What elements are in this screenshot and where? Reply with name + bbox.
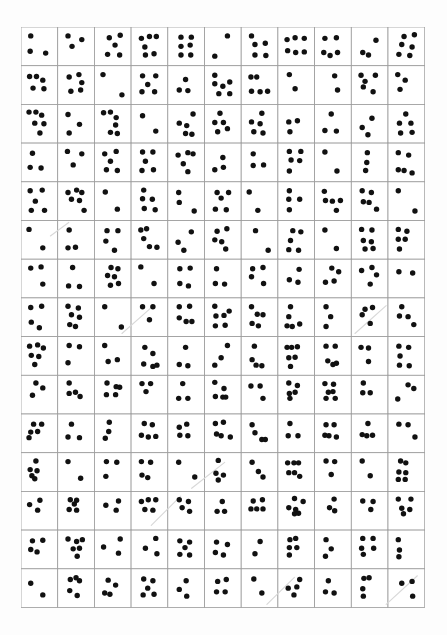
dot-mark <box>38 165 43 170</box>
dot-mark <box>399 42 404 47</box>
dot-mark <box>115 228 120 233</box>
dot-mark <box>221 386 226 391</box>
dot-mark <box>177 304 182 309</box>
dot-mark <box>176 460 181 465</box>
dot-mark <box>263 437 268 442</box>
dot-mark <box>146 497 151 502</box>
grid-cell <box>278 414 315 453</box>
dot-mark <box>78 87 83 92</box>
grid-cell <box>168 221 205 260</box>
grid-cell <box>278 298 315 337</box>
dot-mark <box>27 343 32 348</box>
dot-mark <box>365 132 370 137</box>
dot-mark <box>326 433 331 438</box>
grid-cell <box>315 27 352 66</box>
dot-mark <box>150 197 155 202</box>
dot-mark <box>69 421 74 426</box>
grid-cell <box>94 530 131 569</box>
dot-mark <box>228 434 233 439</box>
grid-cell <box>388 66 425 105</box>
dot-mark <box>212 81 217 86</box>
dot-mark <box>113 115 118 120</box>
dot-mark <box>396 554 401 559</box>
dot-mark <box>409 170 414 175</box>
dot-mark <box>150 149 155 154</box>
dot-mark <box>79 151 84 156</box>
dot-mark <box>213 206 218 211</box>
dot-mark <box>410 270 415 275</box>
dot-mark <box>104 392 109 397</box>
dot-mark <box>219 239 224 244</box>
dot-mark <box>154 362 159 367</box>
dot-mark <box>361 576 366 581</box>
dot-mark <box>294 545 299 550</box>
dot-mark <box>338 198 343 203</box>
dot-mark <box>223 246 228 251</box>
dot-mark <box>252 343 257 348</box>
dot-mark <box>103 189 108 194</box>
dot-mark <box>139 381 144 386</box>
dot-mark <box>104 228 109 233</box>
dot-mark <box>322 227 327 232</box>
dot-mark <box>112 42 117 47</box>
grid-cell <box>131 491 168 530</box>
dot-mark <box>178 44 183 49</box>
grid-cell <box>21 375 58 414</box>
grid-cell <box>315 375 352 414</box>
dot-mark <box>185 150 190 155</box>
dot-mark <box>397 87 402 92</box>
dot-mark <box>181 248 186 253</box>
dot-mark <box>66 391 71 396</box>
dot-mark <box>33 458 38 463</box>
dot-mark <box>177 425 182 430</box>
dot-mark <box>216 477 221 482</box>
grid-cell <box>94 182 131 221</box>
dot-mark <box>398 458 403 463</box>
dot-mark <box>27 467 32 472</box>
dot-mark <box>360 536 365 541</box>
dot-mark <box>215 579 220 584</box>
grid-cell <box>168 375 205 414</box>
dot-mark <box>290 324 295 329</box>
dot-mark <box>77 122 82 127</box>
dot-mark <box>297 577 302 582</box>
dot-mark <box>366 52 371 57</box>
grid-cell <box>58 104 95 143</box>
dot-mark <box>38 264 43 269</box>
dot-mark <box>141 236 146 241</box>
dot-mark <box>250 266 255 271</box>
grid-cell <box>168 143 205 182</box>
dot-mark <box>187 539 192 544</box>
dot-mark <box>248 506 253 511</box>
dot-mark <box>140 149 145 154</box>
dot-mark <box>66 130 71 135</box>
grid-cell <box>388 375 425 414</box>
dot-mark <box>27 165 32 170</box>
dot-mark <box>260 312 265 317</box>
dot-mark <box>140 196 145 201</box>
dot-mark <box>403 460 408 465</box>
dot-mark <box>251 576 256 581</box>
dot-mark <box>213 471 218 476</box>
dot-mark <box>70 265 75 270</box>
dot-mark <box>212 304 217 309</box>
dot-mark <box>141 361 146 366</box>
grid-cell <box>58 298 95 337</box>
dot-mark <box>147 317 152 322</box>
dot-mark <box>286 505 291 510</box>
dot-mark <box>292 496 297 501</box>
grid-cell <box>205 569 242 608</box>
dot-mark <box>154 551 159 556</box>
dot-mark <box>221 420 226 425</box>
dot-mark <box>37 325 42 330</box>
dot-mark <box>284 37 289 42</box>
dot-mark <box>29 353 34 358</box>
dot-mark <box>332 73 337 78</box>
dot-mark <box>77 198 82 203</box>
dot-mark <box>335 87 340 92</box>
grid-cell <box>21 182 58 221</box>
grid-cell <box>315 221 352 260</box>
dot-mark <box>396 227 401 232</box>
dot-mark <box>225 343 230 348</box>
dot-mark <box>66 343 71 348</box>
